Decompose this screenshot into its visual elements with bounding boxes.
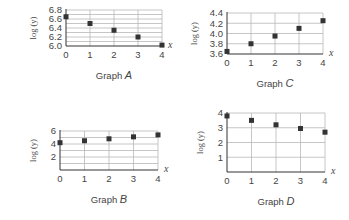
x-tick-label: 1 (248, 57, 253, 68)
data-point (58, 140, 63, 145)
x-tick-label: 3 (296, 57, 301, 68)
y-tick-label: 3 (218, 122, 223, 133)
data-point (273, 34, 278, 39)
x-tick-label: 3 (131, 173, 136, 184)
x-tick-label: 3 (135, 49, 140, 60)
data-point (274, 122, 279, 127)
graph-a: 6.06.26.46.66.801234xlog (y)Graph A (28, 4, 173, 81)
data-point (321, 18, 326, 23)
graph-title: Graph C (257, 77, 294, 89)
x-tick-label: 0 (224, 57, 229, 68)
x-axis-label: x (328, 47, 334, 58)
x-tick-label: 1 (82, 173, 87, 184)
data-point (82, 138, 87, 143)
y-tick-label: 3.8 (210, 38, 223, 49)
data-point (249, 118, 254, 123)
x-tick-label: 4 (322, 175, 327, 186)
graph-title: Graph A (96, 69, 132, 81)
x-axis-label: x (330, 165, 336, 176)
x-tick-label: 2 (273, 175, 278, 186)
data-point (297, 26, 302, 31)
x-tick-label: 2 (106, 173, 111, 184)
data-point (323, 130, 328, 135)
data-point (298, 126, 303, 131)
data-point (136, 35, 141, 40)
y-axis-label: log (y) (189, 22, 199, 45)
data-point (107, 136, 112, 141)
x-tick-label: 1 (249, 175, 254, 186)
x-tick-label: 0 (63, 49, 68, 60)
x-tick-label: 1 (87, 49, 92, 60)
y-tick-label: 4 (218, 107, 223, 118)
x-tick-label: 4 (159, 49, 164, 60)
y-tick-label: 1 (218, 152, 223, 163)
graph-b: 24601234xlog (y)Graph B (28, 125, 169, 205)
data-point (156, 132, 161, 137)
graph-title: Graph D (258, 195, 295, 207)
y-tick-label: 4.4 (210, 7, 223, 18)
x-tick-label: 4 (155, 173, 160, 184)
y-axis-label: log (y) (28, 16, 38, 39)
x-tick-label: 4 (320, 57, 325, 68)
graph-title: Graph B (91, 193, 127, 205)
data-point (249, 41, 254, 46)
y-tick-label: 2 (51, 151, 56, 162)
y-tick-label: 6 (51, 125, 56, 136)
data-point (131, 134, 136, 139)
x-axis-label: x (163, 163, 169, 174)
x-tick-label: 2 (111, 49, 116, 60)
data-point (64, 14, 69, 19)
data-point (225, 49, 230, 54)
x-tick-label: 0 (224, 175, 229, 186)
x-tick-label: 0 (57, 173, 62, 184)
data-point (225, 113, 230, 118)
y-axis-label: log (y) (195, 131, 205, 154)
x-tick-label: 3 (298, 175, 303, 186)
y-tick-label: 2 (218, 137, 223, 148)
y-tick-label: 6.8 (49, 4, 62, 15)
data-point (112, 28, 117, 33)
four-graphs-figure: 6.06.26.46.66.801234xlog (y)Graph A3.63.… (0, 0, 349, 220)
y-tick-label: 3.6 (210, 48, 223, 59)
y-axis-label: log (y) (28, 139, 38, 162)
data-point (160, 43, 165, 48)
graph-d: 123401234xlog (y)Graph D (195, 107, 336, 207)
x-tick-label: 2 (272, 57, 277, 68)
graph-c: 3.63.84.04.24.401234xlog (y)Graph C (189, 7, 334, 89)
y-tick-label: 4 (51, 138, 56, 149)
y-tick-label: 4.0 (210, 28, 223, 39)
x-axis-label: x (167, 39, 173, 50)
y-tick-label: 4.2 (210, 18, 223, 29)
data-point (88, 21, 93, 26)
